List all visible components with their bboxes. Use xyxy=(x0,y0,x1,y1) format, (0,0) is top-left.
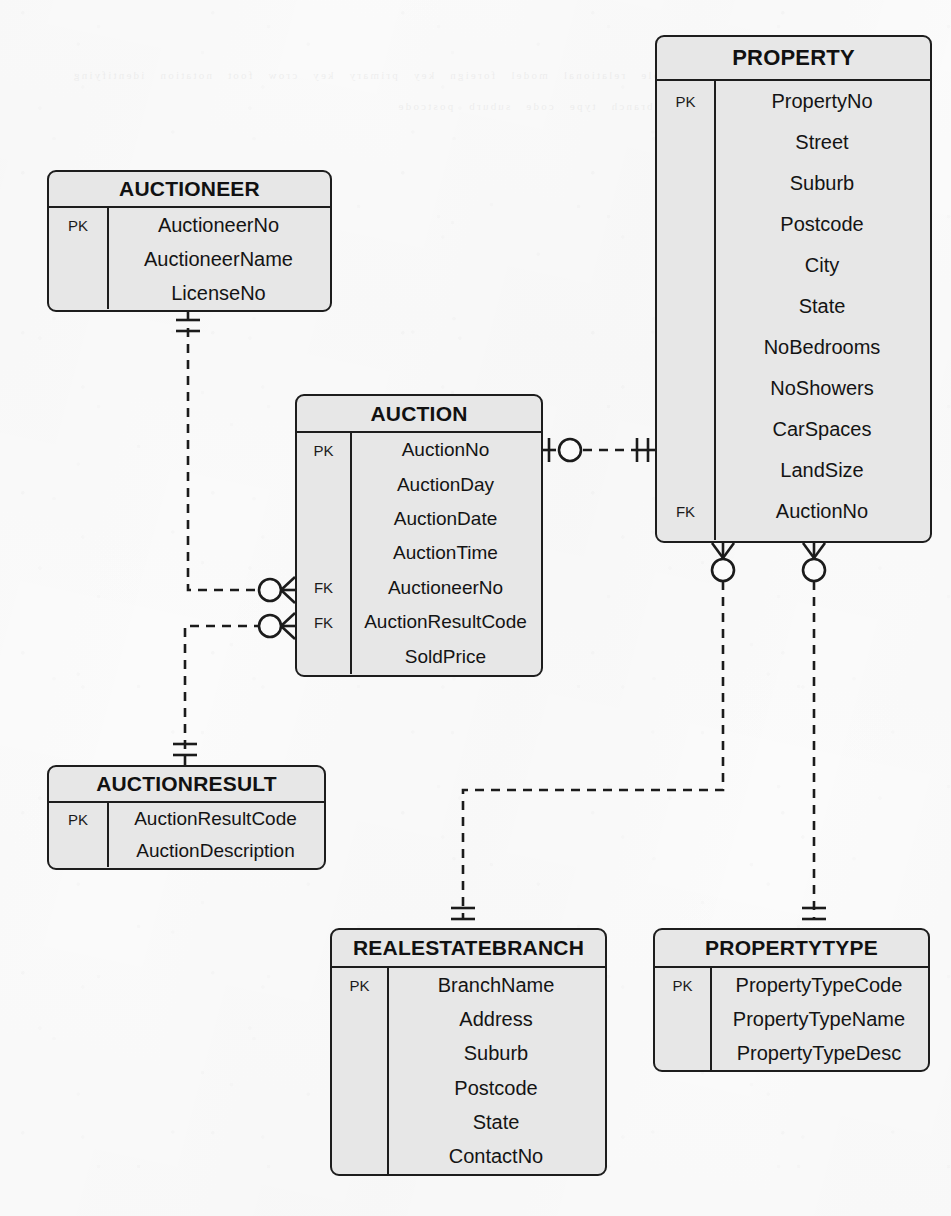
attribute-row[interactable]: PK PropertyTypeCode xyxy=(655,968,928,1002)
attribute-name: AuctionNo xyxy=(350,439,541,461)
entity-body-auctionresult: PK AuctionResultCode AuctionDescription xyxy=(49,803,324,867)
attribute-name: AuctionResultCode xyxy=(107,808,324,830)
key-column-divider xyxy=(714,81,716,540)
attribute-name: LandSize xyxy=(714,459,930,482)
attribute-row[interactable]: State xyxy=(657,286,930,327)
attribute-row[interactable]: NoBedrooms xyxy=(657,327,930,368)
attribute-name: AuctioneerName xyxy=(107,248,330,271)
attribute-row[interactable]: ContactNo xyxy=(332,1139,605,1173)
attribute-name: PropertyTypeDesc xyxy=(710,1042,928,1065)
attribute-row[interactable]: LicenseNo xyxy=(49,276,330,310)
attribute-row[interactable]: AuctionTime xyxy=(297,536,541,570)
attribute-name: PropertyTypeCode xyxy=(710,974,928,997)
attribute-name: ContactNo xyxy=(387,1145,605,1168)
attribute-key: PK xyxy=(657,93,714,110)
attribute-name: AuctionDay xyxy=(350,474,541,496)
entity-title-auctioneer: AUCTIONEER xyxy=(49,172,330,208)
attribute-key: FK xyxy=(657,503,714,520)
entity-title-property: PROPERTY xyxy=(657,37,930,81)
attribute-row[interactable]: Suburb xyxy=(657,163,930,204)
attribute-row[interactable]: City xyxy=(657,245,930,286)
entity-name-text: AUCTIONRESULT xyxy=(96,772,277,796)
relationship-auction-property xyxy=(543,438,655,462)
attribute-key: PK xyxy=(655,977,710,994)
attribute-row[interactable]: AuctioneerName xyxy=(49,242,330,276)
attribute-name: Street xyxy=(714,131,930,154)
attribute-row[interactable]: Street xyxy=(657,122,930,163)
entity-body-auctioneer: PK AuctioneerNo AuctioneerName LicenseNo xyxy=(49,208,330,309)
attribute-row[interactable]: FK AuctionNo xyxy=(657,491,930,532)
attribute-name: AuctionTime xyxy=(350,542,541,564)
attribute-name: BranchName xyxy=(387,974,605,997)
attribute-row[interactable]: AuctionDay xyxy=(297,467,541,501)
attribute-name: State xyxy=(387,1111,605,1134)
attribute-row[interactable]: PK BranchName xyxy=(332,968,605,1002)
attribute-row[interactable]: NoShowers xyxy=(657,368,930,409)
relationship-auctioneer-auction xyxy=(176,312,295,603)
attribute-name: PropertyTypeName xyxy=(710,1008,928,1031)
attribute-row[interactable]: Address xyxy=(332,1002,605,1036)
attribute-key: FK xyxy=(297,579,350,596)
entity-body-property: PK PropertyNo Street Suburb Postcode Cit… xyxy=(657,81,930,540)
attribute-name: AuctionDate xyxy=(350,508,541,530)
attribute-row[interactable]: AuctionDescription xyxy=(49,835,324,867)
key-column-divider xyxy=(107,208,109,309)
entity-propertytype[interactable]: PROPERTYTYPE PK PropertyTypeCode Propert… xyxy=(653,928,930,1072)
attribute-name: Suburb xyxy=(387,1042,605,1065)
entity-auctionresult[interactable]: AUCTIONRESULT PK AuctionResultCode Aucti… xyxy=(47,765,326,870)
attribute-name: SoldPrice xyxy=(350,646,541,668)
attribute-name: AuctionResultCode xyxy=(350,611,541,633)
attribute-row[interactable]: PK PropertyNo xyxy=(657,81,930,122)
key-column-divider xyxy=(387,968,389,1174)
attribute-row[interactable]: Postcode xyxy=(332,1071,605,1105)
entity-name-text: AUCTION xyxy=(370,402,467,426)
attribute-row[interactable]: FK AuctioneerNo xyxy=(297,571,541,605)
attribute-row[interactable]: AuctionDate xyxy=(297,502,541,536)
attribute-key: PK xyxy=(297,442,350,459)
entity-auctioneer[interactable]: AUCTIONEER PK AuctioneerNo AuctioneerNam… xyxy=(47,170,332,312)
key-column-divider xyxy=(107,803,109,867)
attribute-name: Postcode xyxy=(387,1077,605,1100)
attribute-name: Postcode xyxy=(714,213,930,236)
entity-body-realestatebranch: PK BranchName Address Suburb Postcode St… xyxy=(332,968,605,1174)
relationship-property-propertytype xyxy=(802,543,826,919)
attribute-name: AuctionDescription xyxy=(107,840,324,862)
attribute-name: NoShowers xyxy=(714,377,930,400)
er-diagram-canvas: estate auction database schema sample re… xyxy=(0,0,951,1216)
attribute-row[interactable]: State xyxy=(332,1105,605,1139)
attribute-row[interactable]: FK PropertyTypeCode xyxy=(657,532,930,543)
attribute-row[interactable]: PK AuctionNo xyxy=(297,433,541,467)
attribute-row[interactable]: CarSpaces xyxy=(657,409,930,450)
attribute-row[interactable]: PK AuctioneerNo xyxy=(49,208,330,242)
attribute-key: PK xyxy=(49,217,107,234)
entity-body-propertytype: PK PropertyTypeCode PropertyTypeName Pro… xyxy=(655,968,928,1070)
entity-property[interactable]: PROPERTY PK PropertyNo Street Suburb Pos… xyxy=(655,35,932,543)
attribute-key: FK xyxy=(297,614,350,631)
attribute-row[interactable]: PropertyTypeDesc xyxy=(655,1036,928,1070)
entity-title-auction: AUCTION xyxy=(297,396,541,433)
attribute-name: PropertyTypeCode xyxy=(714,541,930,543)
entity-name-text: PROPERTY xyxy=(732,45,855,71)
attribute-row[interactable]: FK AuctionResultCode xyxy=(297,605,541,639)
key-column-divider xyxy=(350,433,352,674)
attribute-row[interactable]: PK AuctionResultCode xyxy=(49,803,324,835)
entity-auction[interactable]: AUCTION PK AuctionNo AuctionDay AuctionD… xyxy=(295,394,543,677)
attribute-row[interactable]: LandSize xyxy=(657,450,930,491)
entity-title-auctionresult: AUCTIONRESULT xyxy=(49,767,324,803)
attribute-row[interactable]: PropertyTypeName xyxy=(655,1002,928,1036)
attribute-row[interactable]: SoldPrice xyxy=(297,639,541,673)
attribute-name: AuctioneerNo xyxy=(107,214,330,237)
entity-realestatebranch[interactable]: REALESTATEBRANCH PK BranchName Address S… xyxy=(330,928,607,1176)
entity-name-text: REALESTATEBRANCH xyxy=(353,936,584,960)
attribute-name: LicenseNo xyxy=(107,282,330,305)
attribute-name: AuctioneerNo xyxy=(350,577,541,599)
entity-name-text: PROPERTYTYPE xyxy=(705,936,878,960)
attribute-row[interactable]: Suburb xyxy=(332,1037,605,1071)
entity-body-auction: PK AuctionNo AuctionDay AuctionDate Auct… xyxy=(297,433,541,674)
entity-title-realestatebranch: REALESTATEBRANCH xyxy=(332,930,605,968)
attribute-name: AuctionNo xyxy=(714,500,930,523)
attribute-name: State xyxy=(714,295,930,318)
attribute-name: CarSpaces xyxy=(714,418,930,441)
attribute-row[interactable]: Postcode xyxy=(657,204,930,245)
attribute-name: PropertyNo xyxy=(714,90,930,113)
